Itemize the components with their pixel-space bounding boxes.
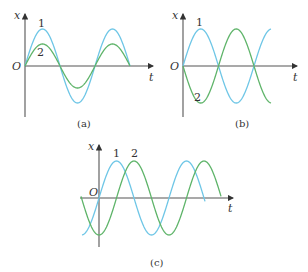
curve-1-label: 1 [196,16,203,29]
panel-caption: (b) [235,118,249,129]
x-axis-label: x [172,9,179,22]
panel-caption: (a) [77,118,91,129]
origin-label: O [12,60,21,73]
panel-caption: (c) [150,257,164,268]
x-axis-label: x [14,9,21,22]
t-axis-label: t [228,202,233,215]
curve-1-label: 1 [38,17,45,30]
vibration-graphs-figure: x t O 1 2 (a) x t O 1 2 (b) x t O 1 2 (c… [0,0,308,272]
origin-label: O [170,60,179,73]
x-axis-label: x [88,140,95,153]
panel-b: x t O 1 2 (b) [170,9,298,129]
panel-a: x t O 1 2 (a) [12,9,154,129]
origin-label: O [89,186,98,199]
t-axis-label: t [293,71,298,84]
curve-1-label: 1 [113,147,120,160]
curve-2-label: 2 [194,91,201,104]
curve-2-label: 2 [131,147,138,160]
curve-2-label: 2 [37,46,44,59]
panel-c: x t O 1 2 (c) [80,140,233,268]
t-axis-label: t [149,71,154,84]
